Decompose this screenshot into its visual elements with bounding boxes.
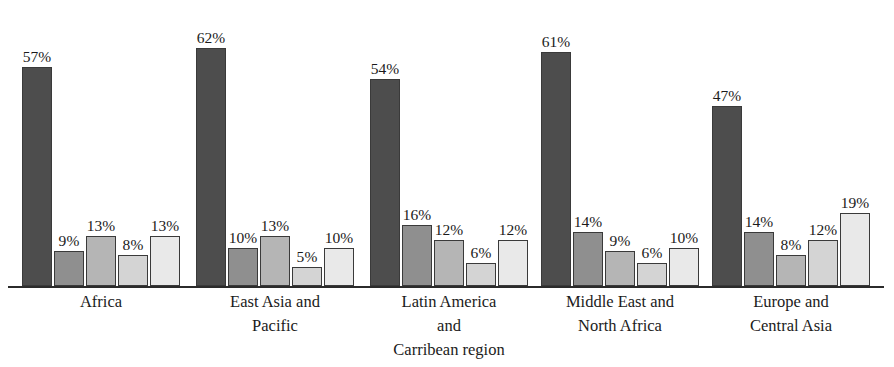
bar[interactable] [712,106,742,286]
bar-item[interactable]: 9% [54,232,84,286]
x-axis-line [8,286,884,288]
bar-item[interactable]: 10% [669,229,699,286]
bar[interactable] [370,79,400,286]
bar-value-label: 19% [841,194,870,212]
bar-item[interactable]: 14% [573,213,603,286]
bar[interactable] [54,251,84,286]
bar-value-label: 10% [325,229,354,247]
category-label-line: Carribean region [349,338,549,362]
bar-item[interactable]: 57% [22,48,52,286]
bar[interactable] [840,213,870,286]
bar[interactable] [86,236,116,286]
bar-value-label: 12% [435,221,464,239]
bar[interactable] [637,263,667,286]
bar-item[interactable]: 6% [466,244,496,286]
bar-item[interactable]: 61% [541,33,571,286]
category-label-line: Central Asia [691,314,891,338]
bar-item[interactable]: 62% [196,29,226,286]
bar-item[interactable]: 19% [840,194,870,286]
bar-value-label: 9% [59,232,80,250]
category-label: East Asia andPacific [175,290,375,338]
bar-value-label: 6% [642,244,663,262]
bar-value-label: 54% [371,60,400,78]
bar[interactable] [324,248,354,286]
category-label: Europe andCentral Asia [691,290,891,338]
bar-item[interactable]: 8% [118,236,148,286]
bar-value-label: 13% [87,217,116,235]
category-label: Africa [1,290,201,314]
bar-value-label: 57% [23,48,52,66]
bar-value-label: 6% [471,244,492,262]
bar-value-label: 12% [809,221,838,239]
bar-item[interactable]: 13% [150,217,180,286]
bar[interactable] [744,232,774,286]
bar[interactable] [541,52,571,286]
bar[interactable] [260,236,290,286]
category-axis-labels: AfricaEast Asia andPacificLatin Americaa… [0,290,894,367]
bar[interactable] [669,248,699,286]
bar-value-label: 10% [229,229,258,247]
bar-item[interactable]: 16% [402,206,432,286]
bar-chart: 57%9%13%8%13%62%10%13%5%10%54%16%12%6%12… [0,0,894,367]
bar-value-label: 13% [151,217,180,235]
category-label-line: Middle East and [520,290,720,314]
bar-value-label: 16% [403,206,432,224]
bar-group: 54%16%12%6%12% [370,0,530,286]
bar[interactable] [434,240,464,286]
bar-item[interactable]: 10% [228,229,258,286]
bar[interactable] [466,263,496,286]
category-label: Middle East andNorth Africa [520,290,720,338]
plot-area: 57%9%13%8%13%62%10%13%5%10%54%16%12%6%12… [0,0,894,288]
bar-value-label: 5% [297,248,318,266]
category-label-line: Europe and [691,290,891,314]
bar-group: 57%9%13%8%13% [22,0,182,286]
bar-item[interactable]: 6% [637,244,667,286]
category-label: Latin AmericaandCarribean region [349,290,549,362]
bar[interactable] [150,236,180,286]
bar-item[interactable]: 8% [776,236,806,286]
bar-group: 47%14%8%12%19% [712,0,872,286]
bar-item[interactable]: 10% [324,229,354,286]
category-label-line: Latin America [349,290,549,314]
bar[interactable] [118,255,148,286]
bar[interactable] [573,232,603,286]
bar-group: 62%10%13%5%10% [196,0,356,286]
bar[interactable] [808,240,838,286]
category-label-line: and [349,314,549,338]
bar-value-label: 12% [499,221,528,239]
bar[interactable] [292,267,322,286]
bar-value-label: 10% [670,229,699,247]
bar[interactable] [776,255,806,286]
category-label-line: North Africa [520,314,720,338]
bar-item[interactable]: 13% [260,217,290,286]
bar-value-label: 8% [781,236,802,254]
bar-value-label: 8% [123,236,144,254]
bar-item[interactable]: 12% [434,221,464,286]
bar-item[interactable]: 5% [292,248,322,286]
bar-value-label: 14% [574,213,603,231]
bar-item[interactable]: 47% [712,87,742,286]
bar-value-label: 9% [610,232,631,250]
category-label-line: Pacific [175,314,375,338]
bar[interactable] [228,248,258,286]
bar-value-label: 13% [261,217,290,235]
bar[interactable] [498,240,528,286]
bar[interactable] [22,67,52,286]
bar-value-label: 61% [542,33,571,51]
bar-item[interactable]: 12% [808,221,838,286]
bar-item[interactable]: 9% [605,232,635,286]
bar[interactable] [196,48,226,286]
bar-item[interactable]: 14% [744,213,774,286]
category-label-line: East Asia and [175,290,375,314]
bar-item[interactable]: 12% [498,221,528,286]
category-label-line: Africa [1,290,201,314]
bar-value-label: 14% [745,213,774,231]
bar-group: 61%14%9%6%10% [541,0,701,286]
bar[interactable] [402,225,432,286]
bar-item[interactable]: 13% [86,217,116,286]
bar-value-label: 62% [197,29,226,47]
bar-item[interactable]: 54% [370,60,400,286]
bar[interactable] [605,251,635,286]
bar-value-label: 47% [713,87,742,105]
